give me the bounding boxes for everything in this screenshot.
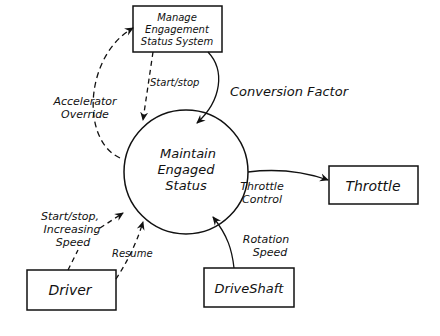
conversion-factor-label: Conversion Factor [230,84,350,99]
manage-line3: Status System [141,36,214,47]
driver-start-stop-line1: Start/stop, [41,210,99,223]
driver-label: Driver [48,282,92,298]
manage-line1: Manage [157,12,197,23]
diagram-canvas: Manage Engagement Status System Throttle… [0,0,440,336]
rotation-speed-line2: Speed [253,246,289,259]
rotation-speed-flow [213,217,234,268]
maintain-engaged-status-process: Maintain Engaged Status [124,110,248,234]
manage-line2: Engagement [145,24,210,35]
throttle-label: Throttle [345,178,400,194]
throttle-control-flow [248,170,328,180]
throttle-control-line2: Control [242,193,282,206]
driver-start-stop-line3: Speed [56,236,92,249]
accelerator-override-line2: Override [61,108,109,121]
driver-entity: Driver [27,270,116,310]
manage-engagement-entity: Manage Engagement Status System [133,6,222,52]
resume-label: Resume [112,248,153,259]
driver-start-stop-line2: Increasing [43,223,100,236]
accelerator-override-flow [93,28,133,158]
process-line3: Status [165,178,207,193]
throttle-entity: Throttle [329,166,418,204]
throttle-control-line1: Throttle [240,180,284,193]
driveshaft-entity: DriveShaft [204,268,294,307]
start-stop-label: Start/stop [150,77,199,88]
accelerator-override-line1: Accelerator [52,95,118,108]
driveshaft-label: DriveShaft [215,281,285,296]
process-line1: Maintain [160,146,216,161]
process-line2: Engaged [157,162,215,177]
rotation-speed-line1: Rotation [243,233,290,246]
